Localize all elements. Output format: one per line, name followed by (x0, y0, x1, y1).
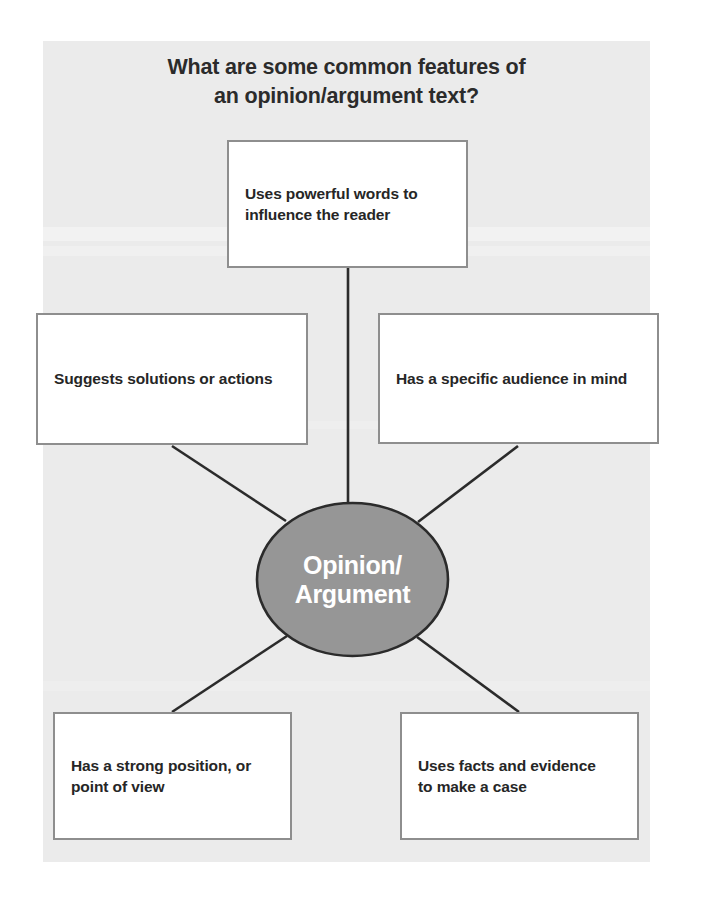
connector-center-to-bottom-left (172, 636, 287, 712)
feature-box-bottom-left-text: Has a strong position, orpoint of view (55, 755, 290, 798)
feature-box-right[interactable]: Has a specific audience in mind (378, 313, 659, 444)
connector-center-to-left (172, 446, 286, 521)
feature-box-bottom-left[interactable]: Has a strong position, orpoint of view (53, 712, 292, 840)
feature-box-bottom-right-text: Uses facts and evidenceto make a case (402, 755, 637, 798)
connector-center-to-bottom-right (417, 637, 519, 712)
feature-box-top[interactable]: Uses powerful words toinfluence the read… (227, 140, 468, 268)
feature-box-bottom-right[interactable]: Uses facts and evidenceto make a case (400, 712, 639, 840)
connector-center-to-right (418, 446, 518, 522)
center-circle (257, 503, 448, 656)
feature-box-left[interactable]: Suggests solutions or actions (36, 313, 308, 445)
diagram-canvas: What are some common features of an opin… (0, 0, 713, 901)
feature-box-left-text: Suggests solutions or actions (38, 368, 306, 389)
feature-box-top-text: Uses powerful words toinfluence the read… (229, 183, 466, 226)
feature-box-right-text: Has a specific audience in mind (380, 368, 657, 389)
